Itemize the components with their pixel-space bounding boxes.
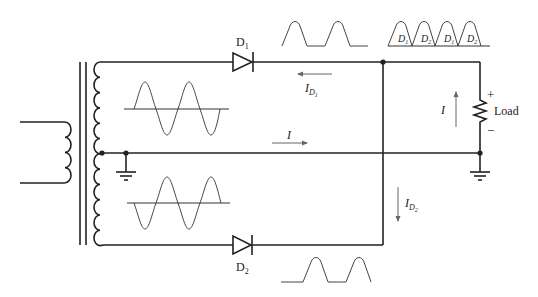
rectifier-diagram: D1 D2 ID1 ID2 I I + − Load D1 D2 D1 D2 <box>0 0 538 297</box>
plus-sign: + <box>487 87 494 102</box>
output-label-d2: D2 <box>420 33 431 45</box>
transformer-primary <box>20 122 71 183</box>
i-center-label: I <box>286 128 292 142</box>
diode-d1 <box>233 52 253 72</box>
sine-waveform-lower <box>127 177 230 229</box>
ground-icon <box>470 153 490 180</box>
sine-waveform-upper <box>124 82 229 135</box>
d2-halfwave-waveform <box>281 258 371 283</box>
transformer-core <box>80 62 86 245</box>
center-tap-wire <box>99 150 482 155</box>
output-label-d1: D1 <box>443 33 454 45</box>
diode-d2 <box>233 235 252 255</box>
circuit-schematic: D1 D2 ID1 ID2 I I + − Load D1 D2 D1 D2 <box>0 0 538 297</box>
load-label: Load <box>494 104 519 118</box>
output-label-d2: D2 <box>466 33 477 45</box>
d1-halfwave-waveform <box>282 22 368 47</box>
arrow-id2 <box>396 187 401 222</box>
load-resistor <box>474 96 486 153</box>
minus-sign: − <box>487 123 494 138</box>
i-load-label: I <box>440 103 446 117</box>
id2-label: ID2 <box>404 196 418 213</box>
arrow-i-load <box>454 91 459 127</box>
top-wire <box>104 62 480 96</box>
arrow-id1 <box>297 72 332 77</box>
d2-label: D2 <box>236 260 249 276</box>
ground-icon <box>116 153 136 180</box>
d1-label: D1 <box>236 35 249 51</box>
id1-label: ID1 <box>304 81 318 98</box>
output-label-d1: D1 <box>397 33 408 45</box>
